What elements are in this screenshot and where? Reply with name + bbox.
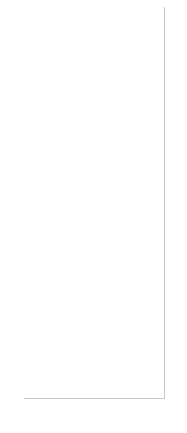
chart-screenshot	[0, 0, 187, 433]
value-axis-line	[24, 398, 164, 399]
rotated-chart-container	[0, 0, 187, 433]
value-axis-labels	[0, 403, 187, 423]
category-axis-line	[164, 7, 165, 399]
bar-series-area	[24, 7, 164, 398]
chart-plot-area	[0, 0, 187, 433]
category-axis-labels	[167, 7, 183, 398]
